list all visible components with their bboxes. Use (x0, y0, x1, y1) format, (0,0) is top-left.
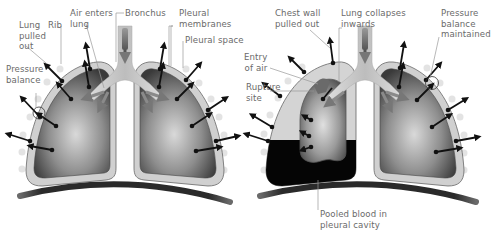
label-lung-collapses-inwards: Lung collapses inwards (341, 8, 406, 29)
label-pooled-blood: Pooled blood in pleural cavity (320, 209, 387, 230)
label-lung-pulled-out: Lung pulled out (19, 20, 46, 52)
label-air-enters-lung: Air enters lung (70, 8, 113, 29)
diaphragm-left (20, 184, 230, 202)
label-pressure-balance-maintained: Pressure balance maintained (441, 8, 491, 40)
label-pleural-space: Pleural space (185, 35, 244, 46)
label-entry-of-air: Entry of air (244, 52, 267, 73)
label-rib: Rib (48, 20, 62, 31)
label-pleural-membranes: Pleural membranes (179, 8, 231, 29)
healthy-right-lung (374, 62, 464, 186)
label-pressure-balance: Pressure balance (6, 64, 44, 85)
right-lung (134, 62, 224, 186)
label-rupture-site: Rupture site (246, 82, 281, 103)
label-bronchus: Bronchus (125, 8, 166, 19)
diaphragm-right (260, 184, 476, 202)
collapsed-lung-panel (246, 26, 478, 210)
label-chest-wall-pulled-out: Chest wall pulled out (275, 8, 320, 29)
